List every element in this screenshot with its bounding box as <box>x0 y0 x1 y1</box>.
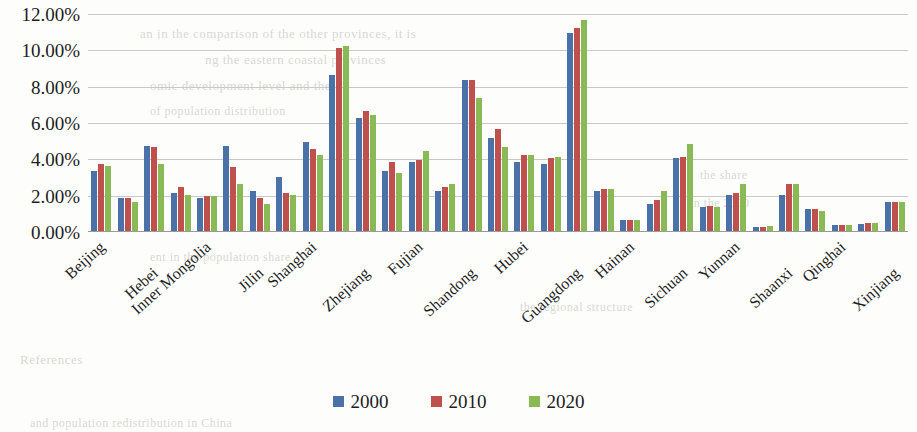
bar[interactable] <box>892 202 898 231</box>
bar[interactable] <box>502 147 508 231</box>
bar[interactable] <box>91 171 97 231</box>
bar[interactable] <box>793 184 799 231</box>
bar[interactable] <box>839 225 845 231</box>
bar[interactable] <box>98 164 104 231</box>
bar[interactable] <box>714 207 720 231</box>
bar[interactable] <box>204 196 210 231</box>
bar[interactable] <box>555 157 561 231</box>
bar[interactable] <box>442 187 448 231</box>
bar[interactable] <box>812 209 818 231</box>
bar[interactable] <box>786 184 792 231</box>
bar[interactable] <box>105 166 111 231</box>
bar[interactable] <box>601 189 607 231</box>
bar[interactable] <box>449 184 455 231</box>
bar[interactable] <box>673 158 679 231</box>
bar[interactable] <box>423 151 429 231</box>
bar[interactable] <box>250 191 256 231</box>
bar[interactable] <box>197 198 203 231</box>
bar[interactable] <box>707 206 713 231</box>
bar[interactable] <box>726 195 732 231</box>
bar[interactable] <box>144 146 150 231</box>
bar[interactable] <box>125 198 131 231</box>
bar[interactable] <box>740 184 746 231</box>
bar[interactable] <box>779 195 785 231</box>
bar[interactable] <box>700 207 706 231</box>
legend-item[interactable]: 2020 <box>529 392 585 411</box>
bar-group <box>511 14 537 231</box>
bar[interactable] <box>317 155 323 231</box>
bar[interactable] <box>409 162 415 231</box>
bar[interactable] <box>528 155 534 231</box>
bar[interactable] <box>230 167 236 231</box>
bar[interactable] <box>171 193 177 231</box>
bar[interactable] <box>310 149 316 231</box>
bar[interactable] <box>627 220 633 231</box>
bar[interactable] <box>237 184 243 231</box>
bar[interactable] <box>469 80 475 231</box>
bar[interactable] <box>865 223 871 231</box>
bar[interactable] <box>329 75 335 231</box>
bar[interactable] <box>899 202 905 231</box>
bar[interactable] <box>343 46 349 231</box>
bar[interactable] <box>647 204 653 231</box>
bar[interactable] <box>819 211 825 231</box>
bar[interactable] <box>257 198 263 231</box>
bar[interactable] <box>846 225 852 231</box>
bar[interactable] <box>661 191 667 231</box>
bar[interactable] <box>435 191 441 231</box>
bar[interactable] <box>858 224 864 231</box>
bar[interactable] <box>283 193 289 231</box>
bar[interactable] <box>767 226 773 231</box>
bar[interactable] <box>118 198 124 231</box>
bar[interactable] <box>290 195 296 231</box>
bar[interactable] <box>396 173 402 231</box>
bar[interactable] <box>185 195 191 231</box>
bar[interactable] <box>158 164 164 231</box>
bar[interactable] <box>303 142 309 231</box>
bar[interactable] <box>733 193 739 231</box>
legend-item[interactable]: 2010 <box>431 392 487 411</box>
bar-group <box>247 14 273 231</box>
bar[interactable] <box>462 80 468 231</box>
bar[interactable] <box>574 28 580 231</box>
bar[interactable] <box>567 33 573 231</box>
legend-item[interactable]: 2000 <box>333 392 389 411</box>
bar[interactable] <box>760 227 766 231</box>
bar[interactable] <box>548 158 554 231</box>
bar[interactable] <box>363 111 369 231</box>
bar[interactable] <box>211 196 217 231</box>
bar[interactable] <box>356 118 362 231</box>
bar[interactable] <box>223 146 229 231</box>
bar[interactable] <box>805 209 811 231</box>
bar[interactable] <box>151 147 157 231</box>
bar[interactable] <box>594 191 600 231</box>
bar[interactable] <box>336 48 342 231</box>
bar[interactable] <box>521 155 527 231</box>
bar[interactable] <box>382 171 388 231</box>
x-axis-tick-label: Shaanxi <box>746 264 796 312</box>
bar[interactable] <box>488 138 494 231</box>
bar[interactable] <box>416 160 422 231</box>
bar[interactable] <box>264 204 270 231</box>
bar[interactable] <box>654 200 660 231</box>
bar[interactable] <box>753 227 759 231</box>
bar[interactable] <box>872 223 878 231</box>
bar[interactable] <box>276 177 282 232</box>
bar[interactable] <box>495 129 501 231</box>
bar[interactable] <box>581 20 587 231</box>
bar[interactable] <box>885 202 891 231</box>
bar[interactable] <box>514 162 520 231</box>
y-axis-tick-label: 6.00% <box>31 114 80 133</box>
bar[interactable] <box>832 225 838 231</box>
bar[interactable] <box>687 144 693 231</box>
bar[interactable] <box>132 202 138 231</box>
bar[interactable] <box>608 189 614 231</box>
bar[interactable] <box>389 162 395 231</box>
bar[interactable] <box>634 220 640 231</box>
bar[interactable] <box>541 164 547 231</box>
bar[interactable] <box>620 220 626 231</box>
bar[interactable] <box>178 187 184 231</box>
bar[interactable] <box>370 115 376 231</box>
bar[interactable] <box>680 157 686 231</box>
bar[interactable] <box>476 98 482 231</box>
